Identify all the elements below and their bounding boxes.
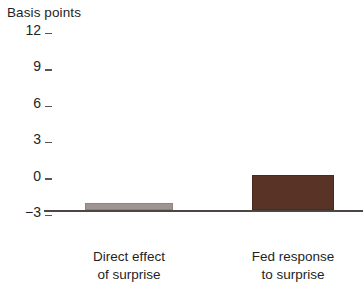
bar-fed-response-to-surprise xyxy=(252,175,334,210)
category-label-line-1: Fed response xyxy=(228,248,358,266)
y-axis-tick-label: 12 xyxy=(25,23,41,37)
category-label-line-2: to surprise xyxy=(228,266,358,284)
y-axis-tick-label: 9 xyxy=(33,59,41,73)
x-axis-category-label-direct-effect: Direct effect of surprise xyxy=(64,248,194,284)
x-axis-category-label-fed-response: Fed response to surprise xyxy=(228,248,358,284)
category-label-line-1: Direct effect xyxy=(64,248,194,266)
y-axis-tick-mark-icon xyxy=(45,215,52,217)
y-axis-tick-label: −3 xyxy=(25,205,41,219)
bar-direct-effect-of-surprise xyxy=(85,203,173,210)
y-axis-tick-label: 3 xyxy=(33,132,41,146)
y-axis-tick-label: 6 xyxy=(33,96,41,110)
plot-area xyxy=(44,30,363,212)
bar-chart: Basis points 12 9 6 3 0 −3 Direct effect… xyxy=(0,0,363,300)
y-axis-tick-label: 0 xyxy=(33,169,41,183)
category-label-line-2: of surprise xyxy=(64,266,194,284)
zero-baseline xyxy=(44,210,363,212)
y-axis-title: Basis points xyxy=(7,5,81,20)
